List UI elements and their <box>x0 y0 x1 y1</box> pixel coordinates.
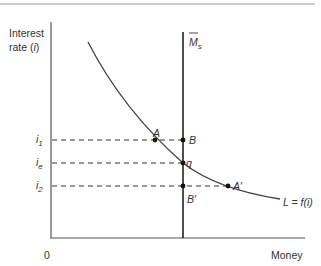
y-axis-label-line1: Interest <box>9 27 44 39</box>
x-axis-label: Money <box>271 249 303 261</box>
money-demand-curve <box>88 42 280 199</box>
point-a-label: A <box>152 127 160 139</box>
y-axis-label-line2: rate (i) <box>9 41 39 53</box>
ie-label: ie <box>36 156 43 171</box>
point-b-label: B <box>189 134 196 146</box>
point-b-prime <box>181 184 186 189</box>
point-q <box>181 161 186 166</box>
money-supply-label: Ms <box>189 36 202 51</box>
point-a-prime <box>226 184 231 189</box>
point-a-prime-label: A′ <box>232 180 243 192</box>
money-market-diagram: Interest rate (i) i1 ie i2 Ms A B q B′ A… <box>0 0 321 266</box>
i1-label: i1 <box>36 133 43 148</box>
i2-label: i2 <box>36 179 43 194</box>
demand-curve-label: L = f(i) <box>283 196 313 208</box>
point-b-prime-label: B′ <box>187 193 197 205</box>
origin-label: 0 <box>44 249 50 261</box>
point-b <box>181 138 186 143</box>
point-q-label: q <box>186 157 192 169</box>
